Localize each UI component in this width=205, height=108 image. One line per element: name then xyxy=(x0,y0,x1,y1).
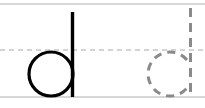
trace-letter-d[interactable] xyxy=(148,8,190,97)
practice-canvas xyxy=(0,0,205,108)
model-letter-d xyxy=(29,12,73,97)
handwriting-worksheet xyxy=(0,0,205,108)
